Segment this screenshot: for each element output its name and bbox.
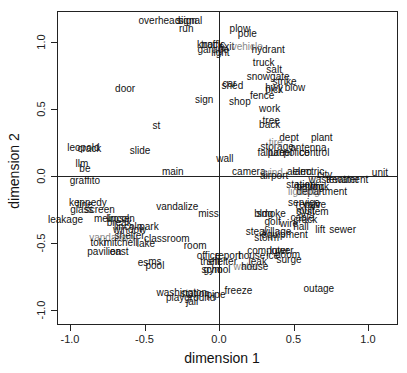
point-label: treatment: [326, 175, 368, 185]
point-label: be: [79, 164, 90, 174]
point-label: control: [299, 148, 329, 158]
y-tick: [51, 42, 57, 43]
x-tick-label: 1.0: [360, 333, 375, 345]
point-label: pole: [238, 29, 257, 39]
x-tick-label: 0.5: [286, 333, 301, 345]
y-axis-title: dimension 2: [6, 133, 22, 209]
point-label: leakage: [48, 215, 83, 225]
point-label: jail: [186, 297, 198, 307]
point-label: pool: [145, 261, 164, 271]
y-tick: [51, 176, 57, 177]
point-label: wall: [216, 154, 233, 164]
x-tick-label: -0.5: [135, 333, 154, 345]
point-label: slide: [130, 146, 151, 156]
point-label: door: [115, 84, 135, 94]
x-tick: [294, 325, 295, 331]
y-tick-label: 0.0: [35, 168, 47, 183]
point-label: surge: [277, 255, 302, 265]
point-label: st: [153, 121, 161, 131]
x-tick: [219, 325, 220, 331]
point-label: vandalize: [156, 202, 198, 212]
point-label: lake: [137, 239, 155, 249]
point-label: main: [162, 167, 184, 177]
point-label: freeze: [224, 286, 252, 296]
point-label: fence: [250, 91, 274, 101]
x-tick-label: 0.0: [211, 333, 226, 345]
y-tick: [51, 310, 57, 311]
point-label: sewer: [329, 225, 356, 235]
point-label: airport: [260, 171, 288, 181]
x-axis-title: dimension 1: [184, 350, 260, 366]
point-label: miss: [198, 209, 219, 219]
point-label: unit: [372, 168, 388, 178]
point-label: overhead: [139, 16, 181, 26]
point-label: back: [259, 120, 280, 130]
y-tick: [51, 243, 57, 244]
x-tick: [145, 325, 146, 331]
point-label: department: [297, 187, 348, 197]
point-label: sign: [195, 95, 213, 105]
point-label: graffito: [70, 176, 100, 186]
y-tick-label: -0.5: [35, 234, 47, 253]
point-label: school: [202, 265, 231, 275]
point-label: east: [110, 247, 129, 257]
point-label: tire: [269, 138, 283, 148]
y-tick: [51, 109, 57, 110]
x-tick-label: -1.0: [61, 333, 80, 345]
point-label: house: [241, 262, 268, 272]
point-label: room: [184, 241, 207, 251]
point-label: run: [179, 24, 193, 34]
point-label: lift: [315, 225, 325, 235]
point-label: shed: [222, 81, 244, 91]
point-label: crack: [77, 144, 101, 154]
reference-line-x0: [219, 11, 220, 325]
x-tick: [70, 325, 71, 331]
y-tick-label: 0.5: [35, 101, 47, 116]
point-label: storm: [254, 233, 279, 243]
point-label: golf: [265, 217, 281, 227]
point-label: outage: [304, 284, 335, 294]
y-tick-label: -1.0: [35, 301, 47, 320]
scatter-chart: -1.0-0.50.00.51.0 -1.0-0.50.00.51.0 dime…: [0, 0, 407, 373]
plot-frame: [57, 11, 398, 325]
point-label: blow: [285, 83, 306, 93]
point-label: light: [211, 48, 229, 58]
y-tick-label: 1.0: [35, 34, 47, 49]
point-label: hydrant: [251, 45, 284, 55]
x-tick: [368, 325, 369, 331]
point-label: work: [259, 104, 280, 114]
point-label: shop: [229, 97, 251, 107]
